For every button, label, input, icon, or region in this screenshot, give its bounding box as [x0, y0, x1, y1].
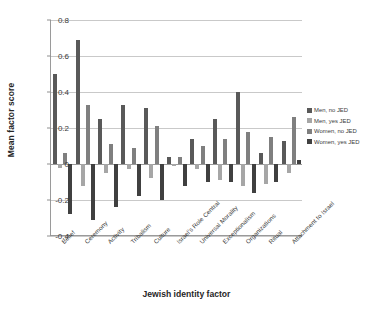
bar: [269, 137, 273, 164]
bar: [160, 164, 164, 200]
bar-slot: [190, 20, 194, 235]
bar: [81, 164, 85, 186]
bar-slot: [252, 20, 256, 235]
bar-slot: [297, 20, 301, 235]
bar: [218, 164, 222, 180]
bar: [206, 164, 210, 182]
bar: [76, 40, 80, 164]
legend-swatch-icon: [307, 118, 312, 123]
bar: [297, 160, 301, 164]
bar-slot: [236, 20, 240, 235]
bar-slot: [91, 20, 95, 235]
bar-slot: [287, 20, 291, 235]
bar-slot: [160, 20, 164, 235]
legend-swatch-icon: [307, 129, 312, 134]
bar: [229, 164, 233, 182]
bar: [282, 141, 286, 164]
bar: [195, 164, 199, 169]
y-tick-label: 0.2: [41, 124, 69, 133]
legend-item[interactable]: Men, no JED: [307, 105, 373, 116]
bar: [137, 164, 141, 196]
bar-slot: [229, 20, 233, 235]
bar-slot: [223, 20, 227, 235]
bar-slot: [206, 20, 210, 235]
legend-swatch-icon: [307, 108, 312, 113]
bar-chart: Mean factor score 0.80.60.40.20-0.2-0.4 …: [0, 0, 373, 311]
chart-legend: Men, no JEDMen, yes JEDWomen, no JEDWome…: [307, 105, 373, 147]
bar-slot: [132, 20, 136, 235]
bar: [155, 126, 159, 164]
bar-slot: [86, 20, 90, 235]
legend-label: Women, yes JED: [314, 139, 359, 145]
legend-item[interactable]: Women, no JED: [307, 126, 373, 137]
bar-slot: [282, 20, 286, 235]
bar-slot: [137, 20, 141, 235]
bar: [121, 105, 125, 164]
x-axis-title: Jewish identity factor: [0, 289, 373, 299]
legend-label: Women, no JED: [314, 128, 357, 134]
bar: [109, 144, 113, 164]
bar-group: [257, 20, 280, 235]
bar-slot: [259, 20, 263, 235]
bar-slot: [292, 20, 296, 235]
bar: [292, 117, 296, 164]
bar-group: [188, 20, 211, 235]
bar-group: [97, 20, 120, 235]
bar: [104, 164, 108, 173]
bar-slot: [241, 20, 245, 235]
legend-item[interactable]: Women, yes JED: [307, 137, 373, 148]
bar: [264, 164, 268, 184]
bar-slot: [183, 20, 187, 235]
bar: [190, 139, 194, 164]
bar-group: [234, 20, 257, 235]
bar-slot: [144, 20, 148, 235]
legend-item[interactable]: Men, yes JED: [307, 116, 373, 127]
bar-slot: [98, 20, 102, 235]
bar-group: [280, 20, 303, 235]
bar-slot: [104, 20, 108, 235]
bar-slot: [121, 20, 125, 235]
bar: [167, 157, 171, 164]
y-tick-label: 0.6: [41, 52, 69, 61]
bar-slot: [274, 20, 278, 235]
bar: [183, 164, 187, 186]
bar-slot: [201, 20, 205, 235]
legend-swatch-icon: [307, 139, 312, 144]
bar: [274, 164, 278, 182]
bar-slot: [172, 20, 176, 235]
bar-slot: [264, 20, 268, 235]
bar: [91, 164, 95, 220]
bar-slot: [149, 20, 153, 235]
bar: [252, 164, 256, 193]
bar: [98, 119, 102, 164]
bar-slot: [81, 20, 85, 235]
bar: [86, 105, 90, 164]
y-tick-label: -0.2: [41, 196, 69, 205]
bar-slot: [269, 20, 273, 235]
bar-slot: [178, 20, 182, 235]
bar: [201, 146, 205, 164]
bar: [68, 164, 72, 214]
y-tick-label: 0.4: [41, 88, 69, 97]
bar-slot: [246, 20, 250, 235]
plot-area: [50, 20, 302, 236]
bar: [178, 157, 182, 164]
bar-group: [120, 20, 143, 235]
legend-label: Men, yes JED: [314, 118, 351, 124]
bar-group: [166, 20, 189, 235]
bar-slot: [195, 20, 199, 235]
y-axis-title: Mean factor score: [6, 50, 16, 190]
bar: [132, 148, 136, 164]
bar: [149, 164, 153, 178]
bar: [172, 164, 176, 166]
bar: [213, 119, 217, 164]
bar-group: [74, 20, 97, 235]
legend-label: Men, no JED: [314, 107, 348, 113]
bar-slot: [155, 20, 159, 235]
bar: [144, 108, 148, 164]
bar-slot: [127, 20, 131, 235]
bar: [246, 132, 250, 164]
bar-slot: [109, 20, 113, 235]
y-tick-label: 0.8: [41, 16, 69, 25]
bar: [114, 164, 118, 207]
